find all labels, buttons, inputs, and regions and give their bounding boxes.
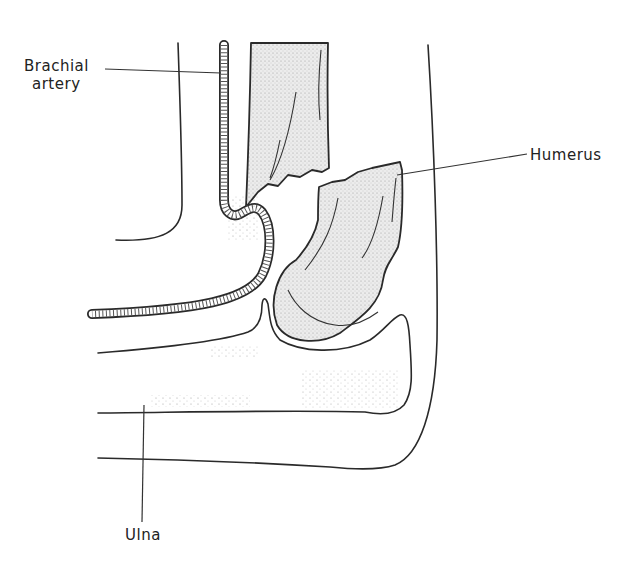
brachial-artery-vessel <box>92 45 270 314</box>
brachial-label-line2: artery <box>24 75 89 93</box>
elbow-drawing <box>0 0 641 570</box>
brachial-label-line1: Brachial <box>24 57 89 75</box>
humerus-distal-fragment <box>274 162 403 341</box>
humerus-proximal-fragment <box>246 43 329 207</box>
humerus-label: Humerus <box>530 146 602 164</box>
humerus-leader <box>397 154 527 175</box>
ulna-leader <box>142 405 144 522</box>
upper-arm-inner-contour <box>116 43 182 240</box>
ulna-label: Ulna <box>125 526 161 544</box>
brachial-artery-leader <box>105 69 221 73</box>
anatomy-figure: Brachial artery Humerus Ulna <box>0 0 641 570</box>
brachial-artery-label: Brachial artery <box>24 57 89 93</box>
